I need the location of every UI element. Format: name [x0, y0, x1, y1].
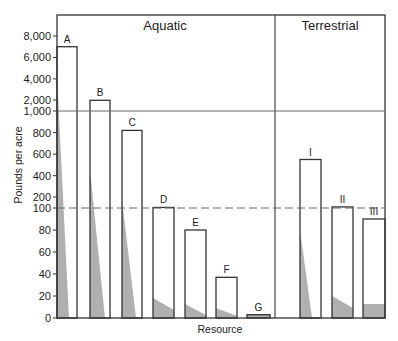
bar-chart: 0204060801002004006008001,0002,0004,0006…	[0, 0, 398, 341]
shaded-portion	[363, 304, 385, 318]
bars	[57, 47, 385, 318]
bar-label: B	[97, 87, 104, 98]
shaded-portion	[185, 304, 206, 318]
shaded-portion	[122, 200, 136, 318]
y-tick-label: 100	[33, 202, 51, 214]
y-tick-label: 60	[39, 246, 51, 258]
y-tick-label: 200	[33, 191, 51, 203]
y-tick-label: 2,000	[23, 94, 51, 106]
section-label-aquatic: Aquatic	[143, 18, 187, 33]
shaded-portion	[300, 230, 312, 318]
bar-label: I	[309, 147, 312, 158]
shaded-portion	[332, 296, 353, 318]
y-tick-label: 6,000	[23, 51, 51, 63]
y-tick-label: 600	[33, 148, 51, 160]
bar-label: II	[340, 194, 346, 205]
y-tick-label: 8,000	[23, 30, 51, 42]
bar-label: D	[160, 194, 167, 205]
bar-labels: ABCDEFGIIIIII	[64, 34, 379, 313]
y-axis-title: Pounds per acre	[12, 126, 24, 203]
bar-label: A	[64, 34, 71, 45]
y-tick-label: 80	[39, 224, 51, 236]
bar-label: C	[128, 117, 135, 128]
y-tick-label: 0	[45, 312, 51, 324]
y-tick-label: 800	[33, 127, 51, 139]
x-axis-title: Resource	[198, 323, 243, 335]
y-tick-label: 20	[39, 290, 51, 302]
shaded-portion	[90, 170, 105, 318]
section-label-terrestrial: Terrestrial	[301, 18, 358, 33]
bar-label: III	[370, 206, 378, 217]
y-tick-label: 400	[33, 170, 51, 182]
y-tick-label: 4,000	[23, 73, 51, 85]
shaded-portion	[153, 298, 174, 318]
y-axis-ticks: 0204060801002004006008001,0002,0004,0006…	[23, 30, 57, 324]
bar-label: G	[255, 302, 263, 313]
bar-III	[363, 219, 385, 318]
plot-frame	[57, 15, 385, 318]
y-tick-label: 40	[39, 268, 51, 280]
y-tick-label: 1,000	[23, 105, 51, 117]
shaded-portion	[216, 308, 237, 318]
bar-E	[185, 230, 206, 318]
bar-label: E	[192, 217, 199, 228]
bar-label: F	[223, 264, 229, 275]
